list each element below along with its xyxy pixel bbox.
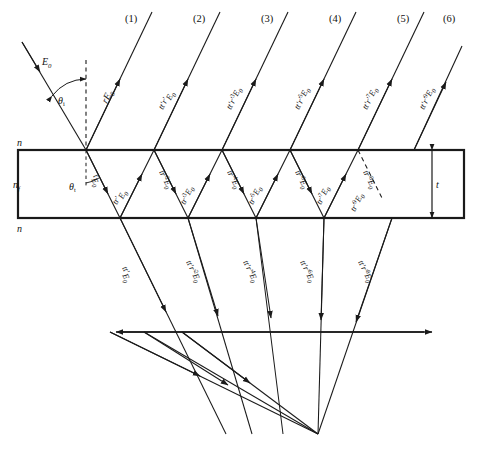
reflected-label-4: tt′r′7E0 [359,84,381,111]
internal-up-label-2: tr′3E0 [177,183,197,206]
reflected-label-3: tt′r′5E0 [291,84,313,111]
internal-up-label-3: tr′5E0 [245,183,265,206]
beam-number-4: (4) [329,13,342,25]
angle-of-refraction-label: θt [69,181,76,193]
incident-amplitude-label: E0 [41,56,52,69]
beam-number-1: (1) [125,13,138,25]
thickness-label: t [436,179,439,190]
film-slab [18,150,464,218]
transmitted-label-4: tt′r′6E0 [297,258,319,285]
first-reflected-ray [86,12,152,150]
internal-ray-path [86,150,358,218]
internal-down-label-1: tE0 [87,172,105,189]
first-reflected-amplitude-label: rE0 [99,87,116,105]
internal-up-label-4: tr′7E0 [313,183,333,206]
thin-film-interference-diagram: E0 θi θt rE0 [0,0,483,453]
reflected-beams [154,12,424,150]
converging-rays [110,218,392,434]
beam-number-6: (6) [443,13,456,25]
film-rectangle [18,150,464,218]
transmitted-beams [120,218,324,434]
beam-number-5: (5) [397,13,410,25]
transmitted-label-1: tt′E0 [116,264,136,285]
beam-number-2: (2) [193,13,206,25]
beam-number-3: (3) [261,13,274,25]
angle-of-incidence-label: θi [58,95,65,107]
index-above-label: n [17,137,22,148]
angle-of-incidence-arc [52,79,86,96]
reflected-label-1: tt′r′E0 [156,88,178,113]
incident-ray [22,42,86,150]
internal-up-label-5: tr′9E0 [347,190,367,213]
reflected-label-2: tt′r′3E0 [223,84,245,111]
index-below-label: n [17,223,22,234]
transmitted-label-3: tt′r′4E0 [240,258,262,285]
